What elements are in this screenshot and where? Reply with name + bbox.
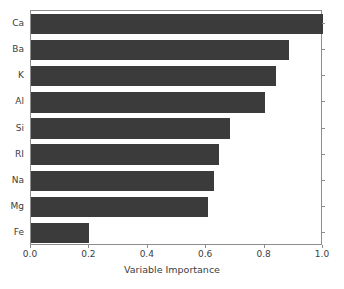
y-tick-label-al: Al <box>0 96 24 106</box>
y-tick-mark <box>322 232 325 233</box>
y-tick-mark <box>322 128 325 129</box>
y-tick-label-ba: Ba <box>0 44 24 54</box>
bar-row <box>31 92 321 112</box>
bar-row <box>31 144 321 164</box>
bar-k <box>31 66 276 86</box>
bar-row <box>31 118 321 138</box>
x-tick-mark <box>322 245 323 248</box>
x-tick-label-0.8: 0.8 <box>244 249 284 259</box>
y-tick-mark <box>322 180 325 181</box>
bar-row <box>31 223 321 243</box>
bar-row <box>31 40 321 60</box>
bar-row <box>31 197 321 217</box>
bar-fe <box>31 223 89 243</box>
bar-ca <box>31 14 323 34</box>
x-tick-mark <box>30 245 31 248</box>
x-tick-label-0.0: 0.0 <box>10 249 50 259</box>
variable-importance-bar-chart: CaBaKAlSiRINaMgFe 0.00.20.40.60.81.0 Var… <box>0 0 344 289</box>
y-tick-label-si: Si <box>0 123 24 133</box>
x-tick-mark <box>88 245 89 248</box>
bar-series <box>31 11 321 244</box>
x-axis-title: Variable Importance <box>0 264 344 275</box>
y-tick-label-ca: Ca <box>0 18 24 28</box>
x-tick-mark <box>147 245 148 248</box>
y-tick-mark <box>322 206 325 207</box>
y-tick-label-mg: Mg <box>0 201 24 211</box>
x-tick-label-0.2: 0.2 <box>68 249 108 259</box>
bar-na <box>31 171 214 191</box>
x-tick-mark <box>264 245 265 248</box>
y-tick-mark <box>322 154 325 155</box>
y-tick-mark <box>322 101 325 102</box>
y-tick-label-k: K <box>0 70 24 80</box>
bar-row <box>31 66 321 86</box>
y-tick-mark <box>322 75 325 76</box>
bar-row <box>31 171 321 191</box>
y-tick-mark <box>322 23 325 24</box>
bar-si <box>31 118 230 138</box>
bar-row <box>31 14 321 34</box>
bar-mg <box>31 197 208 217</box>
x-tick-label-1.0: 1.0 <box>302 249 342 259</box>
y-tick-mark <box>322 49 325 50</box>
y-tick-label-fe: Fe <box>0 227 24 237</box>
bar-ba <box>31 40 289 60</box>
bar-al <box>31 92 265 112</box>
y-tick-label-na: Na <box>0 175 24 185</box>
y-tick-label-ri: RI <box>0 149 24 159</box>
x-tick-label-0.6: 0.6 <box>185 249 225 259</box>
x-tick-mark <box>205 245 206 248</box>
plot-area <box>30 10 322 245</box>
bar-ri <box>31 144 219 164</box>
x-tick-label-0.4: 0.4 <box>127 249 167 259</box>
